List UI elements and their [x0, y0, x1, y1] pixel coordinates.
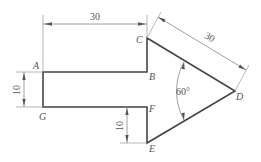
- svg-text:30: 30: [203, 30, 217, 45]
- label-f: F: [148, 103, 156, 114]
- arrow-shape-diagram: 30 30 10 10 60° A B C D E F G: [0, 0, 261, 162]
- left-height-dimension: 10: [11, 72, 43, 107]
- diagonal-cd-dimension: 30: [147, 12, 249, 91]
- label-g: G: [39, 111, 46, 122]
- svg-text:30: 30: [90, 11, 100, 22]
- top-width-dimension: 30: [43, 11, 147, 72]
- arrow-outline: [43, 38, 235, 143]
- label-e: E: [148, 143, 155, 154]
- svg-text:10: 10: [114, 121, 125, 131]
- angle-d-dimension: 60°: [176, 62, 190, 120]
- svg-text:10: 10: [11, 85, 22, 95]
- bottom-height-dimension: 10: [114, 107, 147, 143]
- label-d: D: [235, 91, 244, 102]
- label-a: A: [32, 60, 40, 71]
- label-b: B: [149, 71, 155, 82]
- svg-text:60°: 60°: [176, 86, 190, 97]
- label-c: C: [136, 34, 143, 45]
